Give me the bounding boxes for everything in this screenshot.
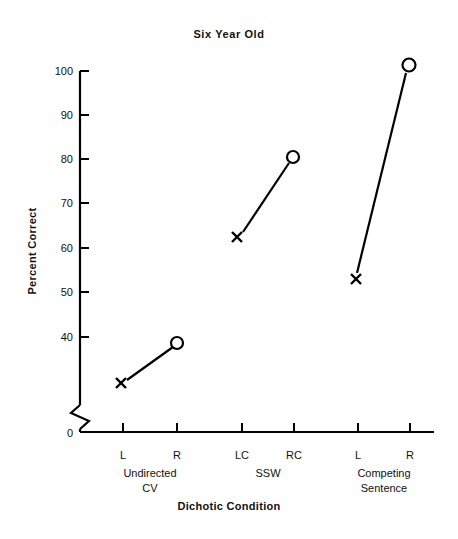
y-tick-label-100: 100 xyxy=(55,65,73,77)
x-tick-label-2: R xyxy=(173,449,181,461)
group-label-competing-sentence-line1: Competing xyxy=(357,467,410,479)
y-tick-label-50: 50 xyxy=(61,286,73,298)
y-tick-label-90: 90 xyxy=(61,109,73,121)
plot-area: 100 90 80 70 60 50 40 0 L R LC RC L R Un… xyxy=(0,0,458,539)
y-axis-label: Percent Correct xyxy=(26,176,38,326)
series-competing-sentence xyxy=(351,59,416,285)
group-label-competing-sentence-line2: Sentence xyxy=(361,482,407,494)
x-tick-label-5: L xyxy=(355,449,361,461)
y-tick-label-60: 60 xyxy=(61,242,73,254)
data-point-marker-o-ssw-RC xyxy=(287,151,299,163)
y-tick-label-0: 0 xyxy=(67,427,73,439)
series-line-ssw xyxy=(243,163,289,232)
x-tick-label-1: L xyxy=(120,449,126,461)
data-point-marker-x-undirected-cv-L xyxy=(116,378,126,388)
y-tick-label-70: 70 xyxy=(61,197,73,209)
group-label-undirected-cv-line1: Undirected xyxy=(123,467,176,479)
x-tick-label-3: LC xyxy=(235,449,249,461)
x-axis-label: Dichotic Condition xyxy=(0,500,458,512)
data-point-marker-o-undirected-cv-R xyxy=(171,337,183,349)
x-tick-label-4: RC xyxy=(286,449,302,461)
y-tick-label-80: 80 xyxy=(61,153,73,165)
x-tick-label-6: R xyxy=(406,449,414,461)
data-point-marker-x-ssw-LC xyxy=(232,232,242,242)
series-ssw xyxy=(232,151,299,242)
series-line-undirected-cv xyxy=(127,347,173,380)
chart-figure: Six Year Old 100 90 80 70 60 50 40 0 xyxy=(0,0,458,539)
y-tick-label-40: 40 xyxy=(61,331,73,343)
data-point-marker-o-competing-sentence-R xyxy=(403,59,416,72)
group-label-ssw: SSW xyxy=(255,467,281,479)
data-point-marker-x-competing-sentence-L xyxy=(351,274,361,284)
y-axis-break-icon xyxy=(71,405,89,429)
group-label-undirected-cv-line2: CV xyxy=(142,482,158,494)
series-undirected-cv xyxy=(116,337,183,388)
series-line-competing-sentence xyxy=(357,73,406,273)
